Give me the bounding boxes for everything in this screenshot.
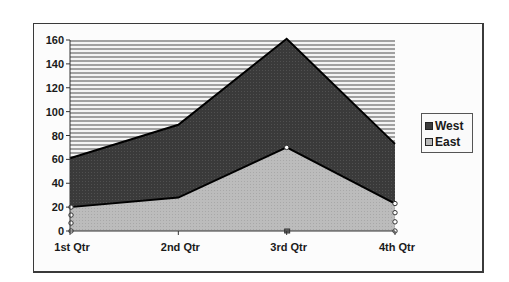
y-axis: 020406080100120140160	[46, 34, 70, 237]
y-tick-label: 0	[58, 225, 64, 237]
y-tick-label: 120	[46, 82, 64, 94]
x-axis: 1st Qtr2nd Qtr3rd Qtr4th Qtr	[54, 231, 415, 253]
y-tick-label: 100	[46, 106, 64, 118]
legend-label-east: East	[435, 135, 460, 149]
x-tick-label: 4th Qtr	[379, 241, 416, 253]
x-tick-label: 2nd Qtr	[161, 241, 201, 253]
y-tick-label: 80	[52, 130, 64, 142]
legend-swatch-east	[425, 138, 433, 146]
x-tick-label: 3rd Qtr	[270, 241, 307, 253]
y-tick-label: 20	[52, 201, 64, 213]
y-tick-label: 40	[52, 177, 64, 189]
y-tick-label: 160	[46, 34, 64, 46]
legend-swatch-west	[425, 122, 433, 130]
plot-area	[69, 39, 397, 233]
y-tick-label: 60	[52, 153, 64, 165]
legend-item-west: West	[425, 119, 463, 133]
legend: West East	[421, 113, 473, 153]
legend-item-east: East	[425, 135, 460, 149]
y-tick-label: 140	[46, 58, 64, 70]
x-tick-label: 1st Qtr	[54, 241, 90, 253]
legend-label-west: West	[435, 119, 463, 133]
